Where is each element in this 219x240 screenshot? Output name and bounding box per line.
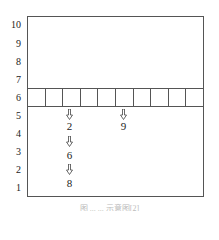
grid-row	[27, 88, 204, 107]
grid-cell	[134, 89, 152, 106]
y-label-3: 3	[1, 147, 21, 157]
sequence-number: 6	[64, 150, 76, 161]
y-label-4: 4	[1, 129, 21, 139]
grid-cell	[116, 89, 134, 106]
grid-cell	[63, 89, 81, 106]
grid-cell	[28, 89, 46, 106]
grid-cell	[186, 89, 203, 106]
down-arrow-icon	[66, 109, 73, 120]
y-label-6: 6	[1, 93, 21, 103]
grid-cell	[46, 89, 64, 106]
grid-cell	[81, 89, 99, 106]
grid-cell	[169, 89, 187, 106]
y-label-1: 1	[1, 183, 21, 193]
y-label-2: 2	[1, 165, 21, 175]
y-label-10: 10	[1, 20, 21, 30]
y-label-7: 7	[1, 75, 21, 85]
down-arrow-icon	[66, 164, 73, 175]
y-label-5: 5	[1, 111, 21, 121]
grid-cell	[151, 89, 169, 106]
down-arrow-icon	[66, 136, 73, 147]
sequence-number: 9	[118, 121, 130, 132]
grid-cell	[98, 89, 116, 106]
down-arrow-icon	[120, 109, 127, 120]
sequence-number: 2	[64, 121, 76, 132]
figure-caption: 图 ... ... 示意图[2]	[0, 202, 219, 211]
y-label-8: 8	[1, 57, 21, 67]
sequence-number: 8	[64, 178, 76, 189]
y-label-9: 9	[1, 39, 21, 49]
